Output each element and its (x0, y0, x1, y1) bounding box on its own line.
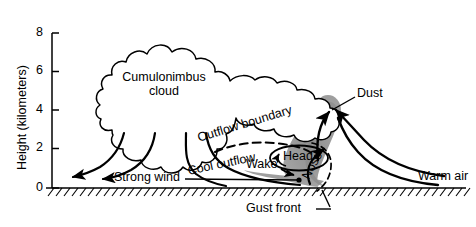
strong-wind-leader (185, 179, 298, 180)
gust-front-label: Gust front (246, 202, 301, 216)
cloud-label-line2: cloud (149, 84, 179, 98)
y-axis-title: Height (kilometers) (16, 65, 30, 170)
ground (46, 188, 470, 196)
y-axis (52, 33, 59, 188)
strong-wind-label: Strong wind (114, 171, 180, 185)
cumulonimbus-cloud-label: Cumulonimbus cloud (117, 71, 211, 98)
y-tick-label-6: 6 (36, 64, 43, 78)
warm-air-label: Warm air (418, 170, 468, 184)
gust-front-diagram: Height (kilometers) 8 6 4 2 0 Cumulonimb… (0, 0, 476, 227)
y-tick-label-0: 0 (36, 181, 43, 195)
cloud-label-line1: Cumulonimbus (122, 70, 205, 84)
y-tick-label-2: 2 (36, 141, 43, 155)
y-tick-label-4: 4 (36, 103, 43, 117)
diagram-canvas (0, 0, 476, 227)
wake-label: Wake (246, 158, 278, 172)
y-tick-label-8: 8 (36, 26, 43, 40)
dust-label: Dust (357, 87, 383, 101)
gust-front-leader-diagonal (322, 190, 330, 207)
